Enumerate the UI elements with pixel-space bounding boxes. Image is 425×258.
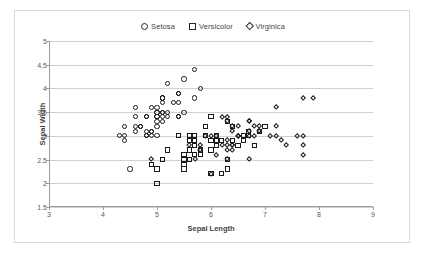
- x-tick-mark: [211, 207, 212, 210]
- gridline: [49, 88, 373, 89]
- data-point-virginica: [224, 147, 230, 153]
- gridline: [49, 183, 373, 184]
- y-tick-mark: [46, 41, 49, 42]
- data-point-virginica: [197, 147, 203, 153]
- data-point-versicolor: [225, 119, 230, 124]
- x-tick-label: 4: [93, 211, 113, 218]
- data-point-setosa: [160, 100, 165, 105]
- data-point-versicolor: [192, 138, 197, 143]
- data-point-versicolor: [149, 162, 154, 167]
- y-tick-label: 4.5: [7, 61, 47, 68]
- x-tick-mark: [103, 207, 104, 210]
- data-point-virginica: [219, 142, 225, 148]
- data-point-virginica: [256, 123, 262, 129]
- data-point-setosa: [160, 114, 165, 119]
- data-point-virginica: [300, 95, 306, 101]
- data-point-setosa: [154, 124, 159, 129]
- data-point-virginica: [300, 152, 306, 158]
- chart-legend: Setosa Versicolor Virginica: [15, 19, 411, 33]
- data-point-setosa: [160, 95, 165, 100]
- data-point-virginica: [235, 123, 241, 129]
- data-point-virginica: [273, 123, 279, 129]
- data-point-setosa: [133, 114, 138, 119]
- data-point-versicolor: [208, 114, 213, 119]
- data-point-setosa: [160, 119, 165, 124]
- gridline: [49, 160, 373, 161]
- x-tick-mark: [265, 207, 266, 210]
- data-point-setosa: [154, 105, 159, 110]
- data-point-setosa: [133, 124, 138, 129]
- data-point-setosa: [149, 129, 154, 134]
- data-point-setosa: [165, 114, 170, 119]
- data-point-virginica: [300, 142, 306, 148]
- data-point-virginica: [246, 128, 252, 134]
- legend-item-virginica: Virginica: [247, 22, 285, 31]
- data-point-versicolor: [198, 147, 203, 152]
- y-tick-label: 4: [7, 85, 47, 92]
- data-point-setosa: [138, 124, 143, 129]
- data-point-setosa: [181, 76, 186, 81]
- y-axis-line: [49, 41, 50, 207]
- data-point-versicolor: [181, 152, 186, 157]
- data-point-setosa: [165, 81, 170, 86]
- data-point-setosa: [144, 114, 149, 119]
- data-point-versicolor: [187, 138, 192, 143]
- data-point-versicolor: [154, 166, 159, 171]
- legend-label-setosa: Setosa: [151, 22, 175, 31]
- data-point-virginica: [246, 119, 252, 125]
- data-point-virginica: [229, 128, 235, 134]
- data-point-setosa: [133, 129, 138, 134]
- data-point-virginica: [197, 147, 203, 153]
- data-point-versicolor: [214, 138, 219, 143]
- data-point-setosa: [122, 138, 127, 143]
- data-point-setosa: [154, 119, 159, 124]
- data-point-versicolor: [246, 129, 251, 134]
- legend-item-setosa: Setosa: [141, 22, 175, 31]
- data-point-virginica: [229, 123, 235, 129]
- data-point-setosa: [160, 95, 165, 100]
- data-point-virginica: [229, 147, 235, 153]
- x-tick-label: 7: [255, 211, 275, 218]
- data-point-virginica: [256, 128, 262, 134]
- data-point-setosa: [176, 114, 181, 119]
- data-point-versicolor: [230, 138, 235, 143]
- data-point-versicolor: [235, 143, 240, 148]
- data-point-virginica: [219, 114, 225, 120]
- data-point-virginica: [229, 142, 235, 148]
- y-tick-mark: [46, 88, 49, 89]
- data-point-virginica: [246, 119, 252, 125]
- data-point-versicolor: [181, 162, 186, 167]
- data-point-versicolor: [219, 138, 224, 143]
- y-tick-mark: [46, 183, 49, 184]
- data-point-virginica: [273, 104, 279, 110]
- data-point-virginica: [251, 123, 257, 129]
- data-point-virginica: [278, 137, 284, 143]
- data-point-setosa: [160, 95, 165, 100]
- data-point-versicolor: [219, 171, 224, 176]
- chart-container: Setosa Versicolor Virginica 1.522.533.54…: [14, 10, 410, 243]
- data-point-versicolor: [203, 124, 208, 129]
- data-point-versicolor: [230, 124, 235, 129]
- data-point-setosa: [171, 100, 176, 105]
- data-point-versicolor: [257, 129, 262, 134]
- y-tick-label: 1.5: [7, 204, 47, 211]
- data-point-versicolor: [192, 143, 197, 148]
- data-point-virginica: [256, 128, 262, 134]
- legend-item-versicolor: Versicolor: [189, 22, 233, 31]
- y-tick-label: 2: [7, 180, 47, 187]
- y-axis-title: Sepal Width: [38, 103, 47, 146]
- data-point-virginica: [208, 171, 214, 177]
- legend-label-virginica: Virginica: [255, 22, 285, 31]
- x-tick-label: 5: [147, 211, 167, 218]
- data-point-versicolor: [214, 143, 219, 148]
- data-point-virginica: [283, 142, 289, 148]
- x-tick-label: 3: [39, 211, 59, 218]
- data-point-setosa: [149, 129, 154, 134]
- legend-label-versicolor: Versicolor: [199, 22, 233, 31]
- data-point-virginica: [224, 137, 230, 143]
- virginica-marker-icon: [246, 22, 254, 30]
- data-point-versicolor: [241, 138, 246, 143]
- data-point-versicolor: [262, 124, 267, 129]
- data-point-setosa: [122, 124, 127, 129]
- x-tick-label: 9: [363, 211, 383, 218]
